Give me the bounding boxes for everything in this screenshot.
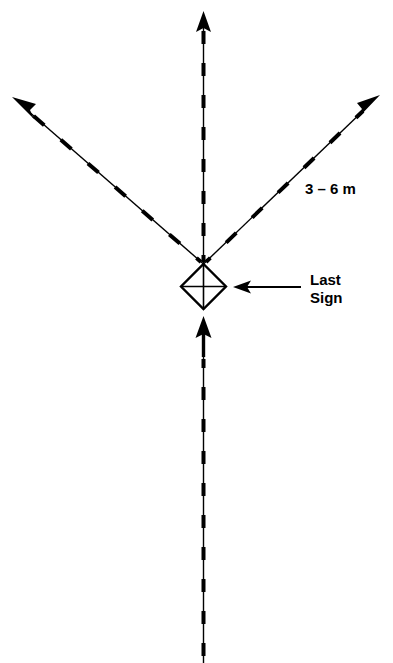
- last-sign-label-line2: Sign: [310, 289, 343, 306]
- diagonal-road-upper-left: [12, 97, 204, 264]
- diagram-canvas: 3 – 6 m Last Sign: [0, 0, 393, 663]
- last-sign-leader-arrow: [233, 281, 301, 294]
- sign-placement-diagram: 3 – 6 m Last Sign: [0, 0, 393, 663]
- diamond-sign-symbol: [181, 264, 226, 309]
- spacing-label: 3 – 6 m: [305, 180, 356, 197]
- center-road-approach-arrow: [196, 316, 212, 357]
- diagonal-upper-right-arrowhead: [357, 95, 380, 118]
- center-road-up: [196, 11, 211, 264]
- diagonal-upper-left-arrowhead: [12, 97, 36, 119]
- last-sign-label-line1: Last: [310, 271, 341, 288]
